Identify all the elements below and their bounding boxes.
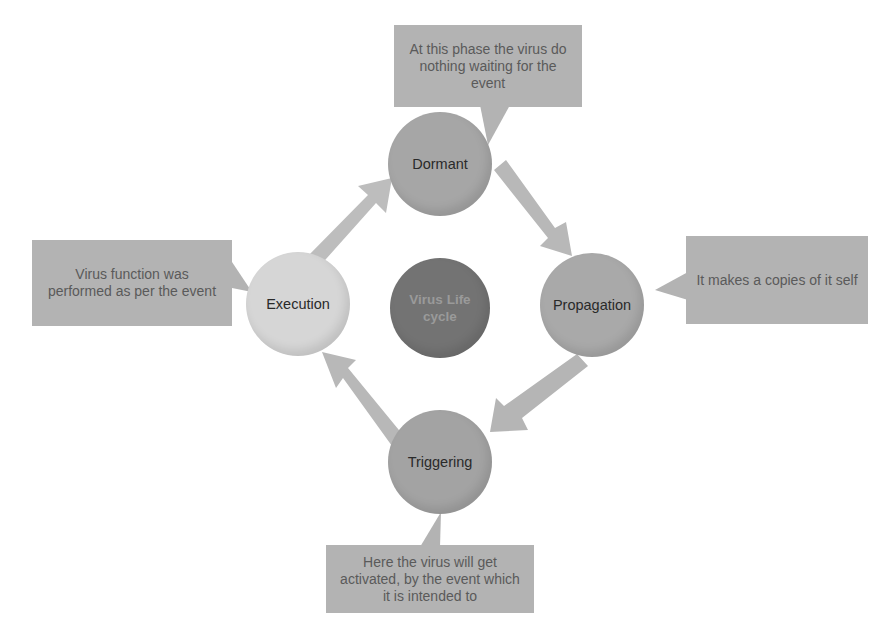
center-label-line1: Virus Life xyxy=(409,291,470,308)
callout-execution: Virus function was performed as per the … xyxy=(32,240,232,326)
arrow-execution-to-dormant xyxy=(306,178,392,268)
virus-life-cycle-diagram: At this phase the virus do nothing waiti… xyxy=(0,0,884,637)
propagation-label: Propagation xyxy=(553,297,631,313)
execution-label: Execution xyxy=(266,296,330,312)
callout-tail-triggering xyxy=(420,512,441,547)
phase-node-propagation: Propagation xyxy=(540,253,644,357)
callout-dormant: At this phase the virus do nothing waiti… xyxy=(394,25,582,107)
arrow-propagation-to-triggering xyxy=(490,354,588,432)
arrow-triggering-to-execution xyxy=(322,352,403,446)
arrow-dormant-to-propagation xyxy=(494,160,572,256)
callout-tail-propagation xyxy=(655,272,688,300)
callout-triggering: Here the virus will get activated, by th… xyxy=(326,545,534,613)
triggering-label: Triggering xyxy=(408,454,473,470)
phase-node-triggering: Triggering xyxy=(388,410,492,514)
propagation-description: It makes a copies of it self xyxy=(696,272,857,289)
execution-description: Virus function was performed as per the … xyxy=(42,266,222,300)
dormant-description: At this phase the virus do nothing waiti… xyxy=(404,41,572,92)
callout-propagation: It makes a copies of it self xyxy=(686,236,868,324)
triggering-description: Here the virus will get activated, by th… xyxy=(336,554,524,605)
center-node-virus-life-cycle: Virus Life cycle xyxy=(390,258,490,358)
dormant-label: Dormant xyxy=(412,156,468,172)
center-label-line2: cycle xyxy=(423,308,457,325)
phase-node-dormant: Dormant xyxy=(388,112,492,216)
phase-node-execution: Execution xyxy=(246,252,350,356)
